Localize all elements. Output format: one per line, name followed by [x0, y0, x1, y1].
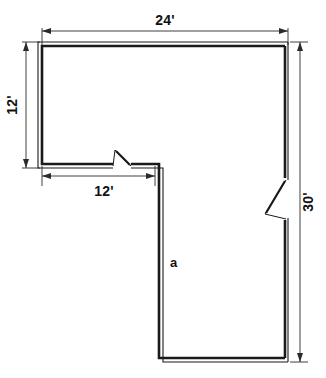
dimension-top-width: 24' [42, 12, 288, 45]
floor-plan-canvas: 24' 12' 12' 30' [0, 0, 326, 378]
arrow-left-icon-2 [42, 173, 51, 179]
arrow-down-icon-2 [297, 353, 303, 362]
arrow-up-icon-2 [297, 42, 303, 51]
arrow-down-icon [23, 159, 29, 168]
door-group [113, 150, 286, 219]
door-exterior-right [265, 180, 286, 219]
arrow-left-icon [42, 28, 51, 34]
floor-plan-diagram: 24' 12' 12' 30' [0, 0, 326, 378]
arrow-right-icon-2 [146, 173, 155, 179]
dimension-right-height: 30' [290, 42, 316, 362]
dimension-label-24: 24' [155, 12, 175, 28]
dimension-label-12-left: 12' [4, 95, 20, 115]
arrow-up-icon [23, 42, 29, 51]
door-interior-top [113, 150, 131, 166]
wall-group [38, 42, 288, 362]
wall-outline-outer [38, 42, 288, 362]
dimension-label-12-bottom: 12' [94, 183, 114, 199]
area-label-a: a [170, 255, 178, 270]
dimension-left-height: 12' [4, 42, 40, 168]
arrow-right-icon [279, 28, 288, 34]
dimension-label-30: 30' [300, 192, 316, 212]
dimension-bottom-left-width: 12' [42, 166, 155, 199]
